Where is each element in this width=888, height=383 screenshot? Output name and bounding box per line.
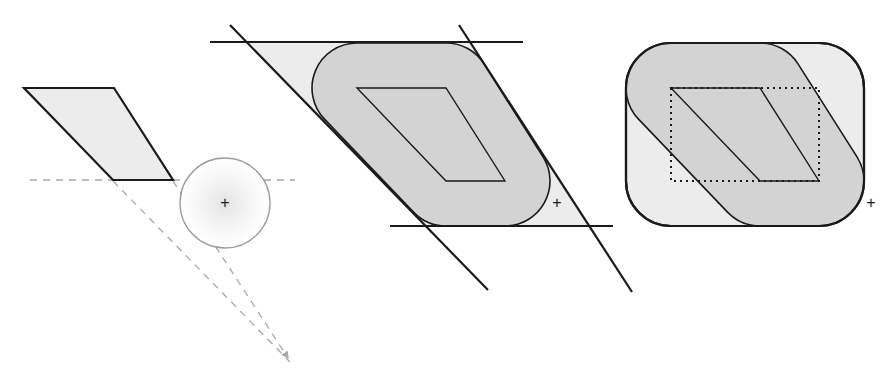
- disk-center-marker: +: [220, 194, 229, 211]
- reference-point-marker-right: +: [866, 194, 875, 211]
- panel-left: +: [24, 88, 295, 362]
- panel-middle: +: [210, 25, 632, 292]
- diagram-svg: + + +: [0, 0, 888, 383]
- panel-right: +: [626, 43, 876, 226]
- diagram-canvas: + + +: [0, 0, 888, 383]
- source-parallelogram: [24, 88, 173, 180]
- reference-point-marker: +: [552, 194, 561, 211]
- minkowski-sum-shape: [312, 43, 550, 226]
